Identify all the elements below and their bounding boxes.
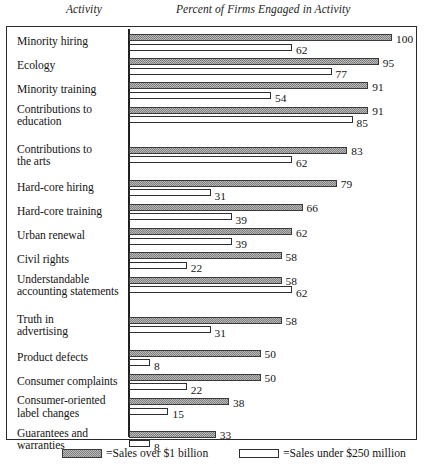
bar-sales-over-1-billion bbox=[129, 107, 368, 114]
bar-sales-over-1-billion bbox=[129, 228, 292, 235]
bar-sales-over-1-billion bbox=[129, 374, 261, 381]
legend-item-sales-under-250-million: =Sales under $250 million bbox=[239, 447, 406, 460]
bar-sales-over-1-billion bbox=[129, 34, 392, 41]
bar-sales-over-1-billion bbox=[129, 82, 368, 89]
bar-value-label: 83 bbox=[351, 146, 362, 157]
chart-row: Hard-core training6639 bbox=[7, 202, 416, 226]
bar-sales-over-1-billion bbox=[129, 252, 282, 259]
bar-value-label: 15 bbox=[172, 409, 183, 420]
bar-sales-over-1-billion bbox=[129, 147, 347, 154]
chart-frame: Minority hiring10062Ecology9577Minority … bbox=[6, 26, 417, 440]
category-label: Civil rights bbox=[17, 254, 69, 267]
bar-sales-under-250-million bbox=[129, 238, 232, 245]
category-label: Consumer complaints bbox=[17, 376, 117, 389]
plot-area: Minority hiring10062Ecology9577Minority … bbox=[7, 27, 416, 439]
bar-value-label: 39 bbox=[236, 215, 247, 226]
bar-value-label: 8 bbox=[154, 361, 160, 372]
bar-sales-over-1-billion bbox=[129, 317, 282, 324]
category-label: Minority training bbox=[17, 84, 96, 97]
bar-sales-under-250-million bbox=[129, 92, 271, 99]
bar-value-label: 85 bbox=[357, 118, 368, 129]
category-label: Contributions to education bbox=[17, 104, 92, 129]
header-percent: Percent of Firms Engaged in Activity bbox=[176, 3, 350, 15]
chart-row: Truth in advertising5831 bbox=[7, 315, 416, 339]
legend-label-sales-under-250-million: =Sales under $250 million bbox=[283, 447, 406, 460]
bar-value-label: 62 bbox=[296, 228, 307, 239]
chart-row: Minority hiring10062 bbox=[7, 32, 416, 56]
bar-sales-over-1-billion bbox=[129, 350, 261, 357]
legend-item-sales-over-1-billion: =Sales over $1 billion bbox=[62, 447, 208, 460]
bar-value-label: 22 bbox=[191, 385, 202, 396]
chart-row: Civil rights5822 bbox=[7, 250, 416, 274]
chart-page: Activity Percent of Firms Engaged in Act… bbox=[0, 0, 424, 472]
bar-sales-under-250-million bbox=[129, 68, 332, 75]
bar-value-label: 31 bbox=[215, 328, 226, 339]
category-label: Consumer-oriented label changes bbox=[17, 395, 105, 420]
bar-sales-over-1-billion bbox=[129, 431, 216, 438]
bar-value-label: 62 bbox=[296, 45, 307, 56]
bar-value-label: 22 bbox=[191, 263, 202, 274]
bar-value-label: 31 bbox=[215, 191, 226, 202]
bar-sales-over-1-billion bbox=[129, 277, 282, 284]
bar-sales-under-250-million bbox=[129, 116, 353, 123]
bar-sales-under-250-million bbox=[129, 44, 292, 51]
bar-value-label: 91 bbox=[372, 82, 383, 93]
bar-sales-under-250-million bbox=[129, 189, 211, 196]
hatched-gray-swatch-icon bbox=[62, 449, 102, 458]
bar-value-label: 54 bbox=[275, 93, 286, 104]
category-label: Product defects bbox=[17, 352, 88, 365]
chart-row: Consumer complaints5022 bbox=[7, 372, 416, 396]
bar-sales-under-250-million bbox=[129, 156, 292, 163]
chart-row: Product defects508 bbox=[7, 348, 416, 372]
bar-sales-under-250-million bbox=[129, 359, 150, 366]
bar-value-label: 66 bbox=[307, 203, 318, 214]
category-label: Ecology bbox=[17, 60, 55, 73]
bar-sales-over-1-billion bbox=[129, 58, 379, 65]
category-label: Hard-core training bbox=[17, 206, 102, 219]
column-headers: Activity Percent of Firms Engaged in Act… bbox=[0, 0, 424, 26]
bar-sales-under-250-million bbox=[129, 286, 292, 293]
legend-label-sales-over-1-billion: =Sales over $1 billion bbox=[106, 447, 208, 460]
category-label: Hard-core hiring bbox=[17, 182, 94, 195]
bar-sales-under-250-million bbox=[129, 262, 187, 269]
chart-row: Minority training9154 bbox=[7, 80, 416, 104]
category-label: Understandable accounting statements bbox=[17, 274, 119, 299]
chart-row: Understandable accounting statements5862 bbox=[7, 275, 416, 299]
bar-sales-under-250-million bbox=[129, 383, 187, 390]
chart-legend: =Sales over $1 billion =Sales under $250… bbox=[0, 444, 424, 472]
bar-value-label: 58 bbox=[286, 252, 297, 263]
bar-value-label: 100 bbox=[396, 34, 413, 45]
category-label: Contributions to the arts bbox=[17, 144, 92, 169]
bar-value-label: 95 bbox=[383, 58, 394, 69]
bar-value-label: 38 bbox=[233, 398, 244, 409]
chart-row: Consumer-oriented label changes3815 bbox=[7, 396, 416, 420]
bar-value-label: 50 bbox=[265, 373, 276, 384]
bar-sales-under-250-million bbox=[129, 408, 168, 415]
bar-sales-over-1-billion bbox=[129, 180, 337, 187]
bar-value-label: 91 bbox=[372, 106, 383, 117]
bar-sales-under-250-million bbox=[129, 213, 232, 220]
bar-sales-over-1-billion bbox=[129, 204, 303, 211]
category-label: Truth in advertising bbox=[17, 314, 68, 339]
bar-value-label: 33 bbox=[220, 430, 231, 441]
bar-value-label: 50 bbox=[265, 349, 276, 360]
bar-value-label: 79 bbox=[341, 179, 352, 190]
bar-value-label: 62 bbox=[296, 288, 307, 299]
bar-sales-over-1-billion bbox=[129, 398, 229, 405]
bar-value-label: 58 bbox=[286, 316, 297, 327]
category-label: Urban renewal bbox=[17, 230, 85, 243]
header-activity: Activity bbox=[66, 3, 102, 15]
bar-sales-under-250-million bbox=[129, 326, 211, 333]
chart-row: Ecology9577 bbox=[7, 56, 416, 80]
bar-value-label: 62 bbox=[296, 158, 307, 169]
chart-row: Contributions to the arts8362 bbox=[7, 145, 416, 169]
white-outline-swatch-icon bbox=[239, 449, 279, 458]
bar-value-label: 77 bbox=[336, 69, 347, 80]
chart-row: Contributions to education9185 bbox=[7, 105, 416, 129]
chart-row: Hard-core hiring7931 bbox=[7, 178, 416, 202]
bar-value-label: 39 bbox=[236, 239, 247, 250]
chart-row: Urban renewal6239 bbox=[7, 226, 416, 250]
category-label: Minority hiring bbox=[17, 36, 88, 49]
